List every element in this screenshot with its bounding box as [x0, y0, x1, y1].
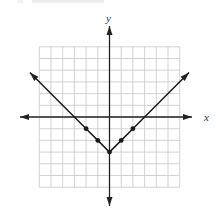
data-point	[131, 126, 136, 131]
data-point	[119, 138, 124, 143]
data-point	[84, 126, 89, 131]
data-point	[95, 138, 100, 143]
data-point	[107, 150, 112, 155]
x-axis-label: x	[203, 111, 209, 123]
y-axis-arrow-down-icon	[107, 197, 113, 206]
axes	[20, 26, 192, 206]
x-axis-arrow-left-icon	[20, 114, 29, 120]
graph-canvas: x y	[0, 0, 217, 213]
x-axis-arrow-right-icon	[183, 114, 192, 120]
y-axis-label: y	[105, 12, 111, 24]
y-axis-arrow-up-icon	[107, 26, 113, 35]
